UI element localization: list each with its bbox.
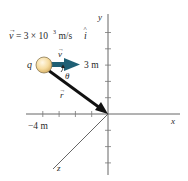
z-axis xyxy=(53,114,108,169)
charge-sphere xyxy=(36,57,52,73)
velocity-arrowhead xyxy=(64,58,80,71)
position-vector-arrow xyxy=(48,70,100,108)
z-axis-label: z xyxy=(56,163,61,173)
x-axis-label: x xyxy=(170,116,175,126)
velocity-label-arrow: → xyxy=(58,46,64,52)
equation-unit-vector-hat: ^ xyxy=(84,25,88,33)
position-label-arrow: → xyxy=(60,87,66,93)
position-vector-arrowhead xyxy=(95,102,108,114)
axis-ticks xyxy=(43,33,111,163)
equation-text: = 3 × 10 xyxy=(16,31,48,41)
equation-vec-arrow: → xyxy=(9,26,16,34)
y-axis-label: y xyxy=(97,12,102,22)
equation-unit: m/s xyxy=(56,31,74,41)
charge-diagram: v → = 3 × 10 3 m/s i ^ q v → θ r → 3 m −… xyxy=(0,0,188,181)
angle-label: θ xyxy=(65,71,70,81)
y-value-label: 3 m xyxy=(84,60,99,70)
charge-label: q xyxy=(27,59,32,70)
x-value-label: −4 m xyxy=(28,121,48,131)
